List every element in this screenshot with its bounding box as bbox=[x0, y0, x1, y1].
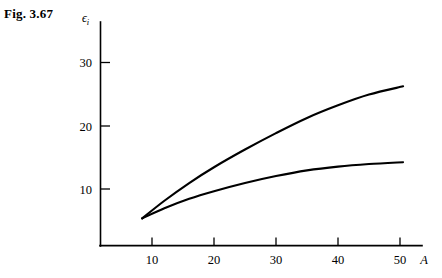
y-tick-label-10: 10 bbox=[80, 183, 93, 197]
x-tick-label-10: 10 bbox=[146, 253, 159, 267]
y-axis-title-subscript: i bbox=[87, 17, 90, 27]
data-curve-upper bbox=[142, 86, 403, 218]
x-tick-label-20: 20 bbox=[208, 253, 221, 267]
y-tick-label-30: 30 bbox=[80, 56, 93, 70]
y-axis-title: ϵi bbox=[82, 11, 90, 27]
x-tick-label-50: 50 bbox=[394, 253, 407, 267]
figure-container: Fig. 3.67 30 20 10 10 20 30 40 50 A ϵi bbox=[0, 0, 442, 278]
y-tick-label-20: 20 bbox=[80, 120, 93, 134]
data-curve-lower bbox=[142, 162, 403, 218]
x-tick-label-30: 30 bbox=[270, 253, 283, 267]
line-chart-plot: 30 20 10 10 20 30 40 50 A ϵi bbox=[0, 0, 442, 278]
x-tick-label-40: 40 bbox=[332, 253, 345, 267]
x-axis-title: A bbox=[419, 253, 428, 267]
